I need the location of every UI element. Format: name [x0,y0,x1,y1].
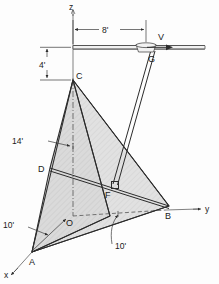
point-label-F: F [105,190,111,200]
dimension-8ft: 8' [73,20,146,44]
axis-x: x [4,252,32,280]
point-label-C: C [76,71,83,81]
statics-diagram-figure: z y x [0,0,219,284]
axis-label-x: x [4,270,9,280]
force-label-V: V [158,32,164,42]
point-label-A: A [29,257,35,267]
force-vector-V: V [147,32,173,50]
diagram-canvas: z y x [0,0,219,284]
axis-label-z: z [69,2,73,12]
dimension-label-8ft: 8' [102,25,109,35]
axis-label-y: y [205,204,210,214]
dimension-label-14ft: 14' [12,136,23,146]
dimension-label-10ft-x: 10' [3,220,14,230]
point-label-D: D [38,164,45,174]
dimension-4ft: 4' [39,47,71,80]
point-label-G: G [148,54,155,64]
dimension-label-4ft: 4' [39,60,46,70]
point-label-O: O [66,218,73,228]
point-label-B: B [165,211,171,221]
dimension-label-10ft-y: 10' [115,241,126,251]
